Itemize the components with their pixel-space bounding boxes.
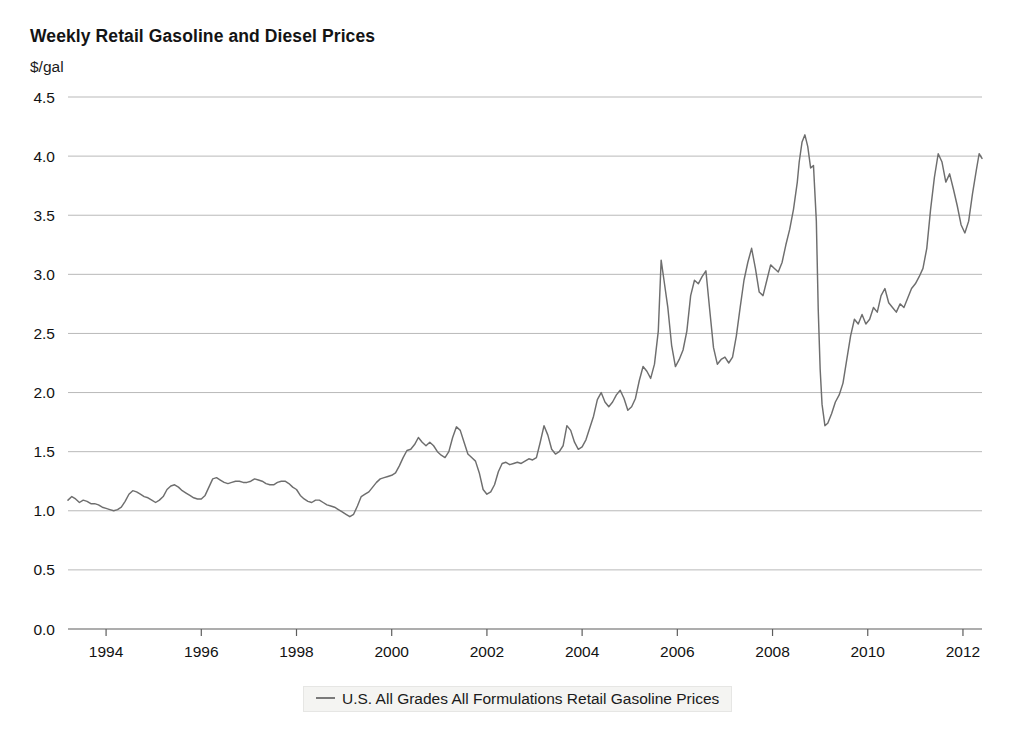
chart-legend: U.S. All Grades All Formulations Retail … [303, 686, 732, 712]
series-line-us-all-grades-retail-gasoline [68, 135, 982, 517]
y-axis-tick-labels: 0.00.51.01.52.02.53.03.54.04.5 [33, 89, 55, 638]
y-axis-tick-label: 3.0 [33, 266, 55, 283]
y-axis-tick-label: 0.0 [33, 621, 55, 638]
chart-container: Weekly Retail Gasoline and Diesel Prices… [0, 0, 1022, 738]
x-axis-tick-label: 2008 [755, 643, 789, 660]
x-axis-tick-label: 1994 [89, 643, 124, 660]
y-axis-tick-label: 0.5 [33, 561, 55, 578]
x-axis-tick-labels: 1994199619982000200220042006200820102012 [89, 643, 980, 660]
y-axis-tick-label: 4.5 [33, 89, 55, 106]
y-axis-tick-label: 1.5 [33, 443, 55, 460]
x-axis-tick-label: 2000 [374, 643, 409, 660]
legend-label: U.S. All Grades All Formulations Retail … [342, 690, 719, 708]
x-axis-tick-label: 2006 [660, 643, 694, 660]
y-axis-tick-label: 2.0 [33, 384, 55, 401]
y-axis-tick-label: 2.5 [33, 325, 55, 342]
x-axis-tick-label: 1998 [279, 643, 313, 660]
x-axis-tick-label: 2010 [851, 643, 886, 660]
y-axis-tick-label: 1.0 [33, 502, 55, 519]
x-axis-tick-label: 1996 [184, 643, 218, 660]
x-axis-tick-label: 2002 [470, 643, 504, 660]
y-axis-tick-label: 3.5 [33, 207, 55, 224]
plot-area: 0.00.51.01.52.02.53.03.54.04.5 199419961… [0, 0, 1022, 680]
x-axis-tick-label: 2004 [565, 643, 600, 660]
y-axis-tick-label: 4.0 [33, 148, 55, 165]
x-axis [106, 629, 963, 636]
x-axis-tick-label: 2012 [946, 643, 980, 660]
gridlines [68, 97, 982, 629]
legend-line-swatch [316, 697, 335, 699]
data-series-group [68, 135, 982, 517]
